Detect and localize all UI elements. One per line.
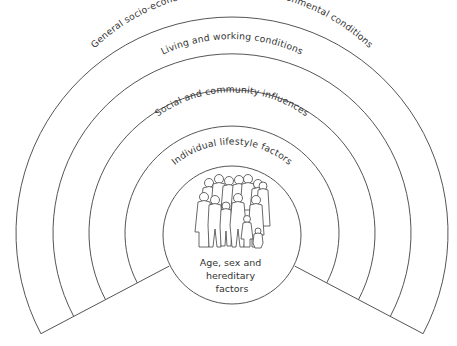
core-label-line-3: factors (216, 283, 249, 294)
core-label-line-2: hereditary (206, 270, 256, 281)
core-label-line-1: Age, sex and (200, 257, 262, 268)
layer-label-social: Social and community influences (153, 83, 312, 118)
layer-label-living: Living and working conditions (159, 30, 305, 56)
radial-line-left (41, 266, 169, 334)
people-group-icon (195, 175, 270, 249)
health-determinants-diagram: General socio-economic, cultural and env… (0, 0, 457, 346)
core-label: Age, sex and hereditary factors (200, 257, 265, 294)
layer-label-outer: General socio-economic, cultural and env… (88, 0, 375, 50)
layer-label-individual: Individual lifestyle factors (169, 135, 295, 166)
rainbow-diagram-svg: General socio-economic, cultural and env… (0, 0, 457, 346)
radial-line-right (295, 266, 423, 334)
